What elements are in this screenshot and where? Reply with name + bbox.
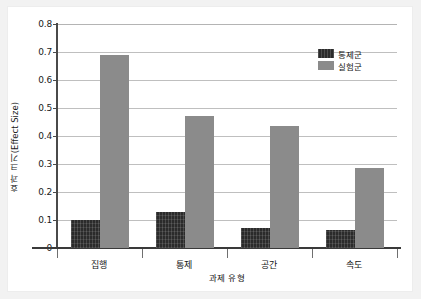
bar-control-1 (156, 212, 185, 248)
x-axis-tick-mark (142, 249, 143, 258)
bar-experimental-3 (355, 168, 384, 248)
legend-item-control: 통제군 (318, 49, 363, 58)
x-axis-category-label-2: 공간 (261, 258, 278, 271)
y-axis-title: 효과 크기(Effect Size) (9, 92, 23, 202)
y-axis-tick-label: 0.7 (38, 47, 52, 57)
bar-experimental-1 (185, 116, 214, 248)
legend-item-experimental: 실험군 (318, 61, 363, 70)
x-axis-category-label-3: 속도 (346, 258, 363, 271)
y-axis-tick-label: 0.5 (38, 103, 52, 113)
x-axis-category-label-1: 통제 (176, 258, 193, 271)
legend-swatch-control-icon (318, 49, 334, 58)
x-axis-tick-mark (57, 249, 58, 258)
bar-experimental-0 (100, 55, 129, 248)
bar-control-2 (241, 228, 270, 248)
y-axis-tick-label: 0.6 (38, 75, 52, 85)
legend-label: 통제군 (338, 48, 363, 60)
x-axis-tick-mark (397, 249, 398, 258)
legend-swatch-experimental-icon (318, 61, 334, 70)
chart-figure: 0.80.70.60.50.40.30.20.10 효과 크기(Effect S… (0, 0, 421, 299)
x-axis-tick-mark (312, 249, 313, 258)
bar-control-3 (326, 230, 355, 248)
legend-label: 실험군 (338, 60, 363, 72)
y-axis-tick-label: 0.8 (38, 19, 52, 29)
bar-control-0 (71, 220, 100, 248)
chart-legend: 통제군실험군 (318, 49, 363, 70)
y-axis-tick-label: 0.1 (38, 215, 52, 225)
y-axis-tick-label: 0.3 (38, 159, 52, 169)
y-axis-tick-label: 0.4 (38, 131, 52, 141)
x-axis-category-label-0: 집행 (91, 258, 108, 271)
bar-experimental-2 (270, 126, 299, 248)
y-axis-tick-label: 0.2 (38, 187, 52, 197)
x-axis-tick-mark (227, 249, 228, 258)
y-axis-tick-labels: 0.80.70.60.50.40.30.20.10 (0, 0, 52, 299)
x-axis-title: 과제 유형 (57, 271, 397, 283)
